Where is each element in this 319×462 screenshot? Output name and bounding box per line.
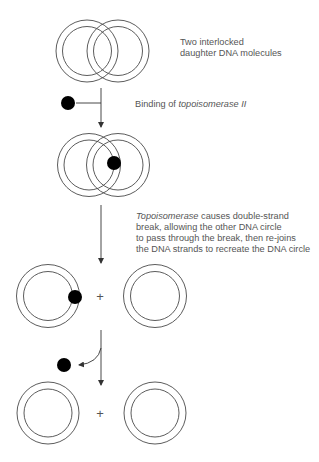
strand-passage-label: Topoisomerase causes double-strand break… [136, 211, 310, 255]
strand-passage-label-line-2: break, allowing the other DNA circle [136, 222, 310, 233]
dna-ring-left [17, 382, 79, 444]
binding-label-prefix: Binding of [135, 99, 178, 109]
binding-label: Binding of topoisomerase II [135, 99, 246, 110]
binding-label-enzyme: topoisomerase II [178, 99, 246, 109]
plus-sign: + [96, 289, 104, 304]
strand-passage-label-rest: causes double-strand [198, 211, 288, 221]
strand-passage-label-enzyme: Topoisomerase [136, 211, 198, 221]
dna-ring-right [124, 265, 187, 328]
interlocked-label-line-1: Two interlocked [180, 37, 282, 48]
topoisomerase-enzyme-icon [61, 96, 75, 110]
topoisomerase-enzyme-icon [107, 156, 121, 170]
release-arrow [79, 330, 101, 385]
binding-arrow [76, 88, 101, 127]
released-enzyme-icon [57, 358, 71, 372]
interlocked-dna-rings [56, 20, 149, 82]
interlocked-label: Two interlocked daughter DNA molecules [180, 37, 282, 59]
dna-ring-right [124, 382, 186, 444]
plus-sign: + [96, 406, 104, 421]
strand-passage-label-line-4: the DNA strands to recreate the DNA circ… [136, 244, 310, 255]
strand-passage-label-line-3: to pass through the break, then re-joins [136, 233, 310, 244]
interlocked-label-line-2: daughter DNA molecules [180, 48, 282, 59]
strand-passage-label-line-1: Topoisomerase causes double-strand [136, 211, 310, 222]
interlocked-dna-rings-with-enzyme [58, 134, 150, 197]
topoisomerase-enzyme-icon [68, 290, 82, 304]
